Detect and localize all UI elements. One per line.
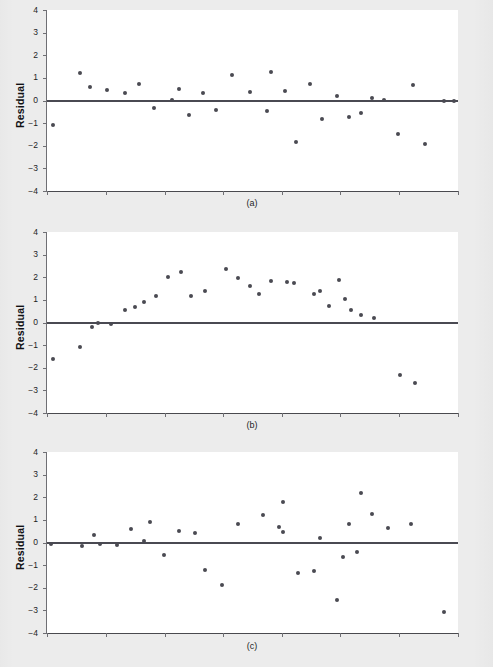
x-tick xyxy=(223,633,224,637)
x-tick xyxy=(47,633,48,637)
y-tick xyxy=(43,101,47,102)
y-tick-label: 3 xyxy=(22,250,38,259)
y-tick-label: −2 xyxy=(22,363,38,372)
y-tick-label: −4 xyxy=(22,187,38,196)
x-tick xyxy=(223,191,224,195)
panel-b: 43210−1−2−3−4 Residual (b) xyxy=(0,222,493,444)
panel-c-plot: 43210−1−2−3−4 xyxy=(0,442,493,642)
data-point xyxy=(220,583,224,587)
y-tick-label: 1 xyxy=(22,73,38,82)
y-tick xyxy=(43,168,47,169)
y-tick xyxy=(43,55,47,56)
y-tick-label: 1 xyxy=(22,295,38,304)
data-point xyxy=(177,529,181,533)
data-point xyxy=(349,308,353,312)
panel-a-caption: (a) xyxy=(222,199,282,208)
x-tick xyxy=(282,413,283,417)
x-tick xyxy=(399,413,400,417)
y-tick xyxy=(43,610,47,611)
data-point xyxy=(294,140,298,144)
data-point xyxy=(115,543,119,547)
x-tick xyxy=(106,633,107,637)
y-tick xyxy=(43,123,47,124)
y-tick xyxy=(43,146,47,147)
data-point xyxy=(224,267,228,271)
data-point xyxy=(337,278,341,282)
y-tick xyxy=(43,345,47,346)
y-tick xyxy=(43,390,47,391)
x-tick xyxy=(47,413,48,417)
y-tick xyxy=(43,10,47,11)
y-tick-label: −2 xyxy=(22,141,38,150)
y-tick xyxy=(43,323,47,324)
data-point xyxy=(214,108,218,112)
panel-c-axis-title: Residual xyxy=(14,525,26,570)
y-tick xyxy=(43,520,47,521)
panel-a-plot: 43210−1−2−3−4 xyxy=(0,0,493,200)
y-tick-label: 3 xyxy=(22,28,38,37)
data-point xyxy=(265,109,269,113)
y-tick-label: −4 xyxy=(22,629,38,638)
x-tick xyxy=(458,633,459,637)
y-tick xyxy=(43,452,47,453)
y-tick-label: −4 xyxy=(22,409,38,418)
data-point xyxy=(386,526,390,530)
x-tick xyxy=(340,413,341,417)
y-tick xyxy=(43,565,47,566)
data-point xyxy=(370,512,374,516)
panel-b-plot: 43210−1−2−3−4 xyxy=(0,222,493,422)
y-tick-label: 4 xyxy=(22,6,38,15)
data-point xyxy=(327,304,331,308)
x-tick xyxy=(165,633,166,637)
x-tick xyxy=(47,191,48,195)
y-tick xyxy=(43,368,47,369)
data-point xyxy=(142,300,146,304)
x-tick xyxy=(282,191,283,195)
data-point xyxy=(442,99,446,103)
y-tick xyxy=(43,277,47,278)
y-tick-label: 2 xyxy=(22,493,38,502)
data-point xyxy=(281,530,285,534)
y-tick xyxy=(43,475,47,476)
data-point xyxy=(372,316,376,320)
panel-a-zero-line xyxy=(47,100,458,102)
x-tick xyxy=(165,413,166,417)
x-tick xyxy=(340,633,341,637)
panel-c-caption: (c) xyxy=(222,642,282,651)
data-point xyxy=(148,520,152,524)
y-tick xyxy=(43,232,47,233)
data-point xyxy=(257,292,261,296)
panel-c: 43210−1−2−3−4 Residual (c) xyxy=(0,442,493,667)
data-point xyxy=(452,99,456,103)
y-tick xyxy=(43,543,47,544)
y-tick xyxy=(43,497,47,498)
x-tick xyxy=(165,191,166,195)
data-point xyxy=(189,294,193,298)
data-point xyxy=(201,91,205,95)
y-tick xyxy=(43,255,47,256)
y-tick-label: 1 xyxy=(22,515,38,524)
y-tick-label: −3 xyxy=(22,386,38,395)
panel-b-axis-title: Residual xyxy=(14,305,26,350)
y-tick-label: −2 xyxy=(22,583,38,592)
data-point xyxy=(442,610,446,614)
data-point xyxy=(335,598,339,602)
x-tick xyxy=(458,413,459,417)
y-tick xyxy=(43,33,47,34)
data-point xyxy=(269,279,273,283)
y-tick-label: 4 xyxy=(22,448,38,457)
data-point xyxy=(177,87,181,91)
data-point xyxy=(261,513,265,517)
data-point xyxy=(123,308,127,312)
x-tick xyxy=(282,633,283,637)
x-tick xyxy=(399,633,400,637)
panel-c-x-axis xyxy=(46,633,458,634)
data-point xyxy=(343,297,347,301)
panel-c-zero-line xyxy=(47,542,458,544)
y-tick-label: 2 xyxy=(22,273,38,282)
data-point xyxy=(413,381,417,385)
y-tick xyxy=(43,588,47,589)
data-point xyxy=(142,539,146,543)
x-tick xyxy=(458,191,459,195)
panel-a-axis-title: Residual xyxy=(14,83,26,128)
